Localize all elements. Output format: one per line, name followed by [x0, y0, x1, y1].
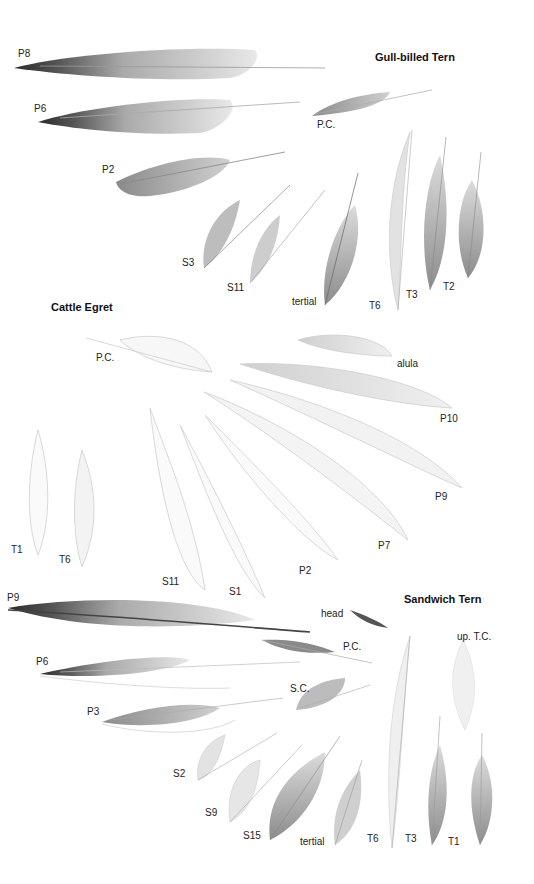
- feather-plate: Gull-billed Tern Cattle Egret Sandwich T…: [0, 0, 534, 884]
- label-ce-s11: S11: [162, 577, 179, 587]
- label-ce-p2: P2: [299, 566, 311, 576]
- label-gbt-s11: S11: [227, 283, 244, 293]
- sandwich-tern-feathers: [8, 600, 492, 848]
- label-ce-p7: P7: [378, 541, 390, 551]
- gull-billed-tern-feathers: [14, 49, 484, 310]
- cattle-egret-feathers: [29, 335, 462, 598]
- label-st-s15: S15: [243, 831, 261, 841]
- label-ce-p9: P9: [435, 492, 447, 502]
- label-st-head: head: [321, 609, 343, 619]
- label-st-pc: P.C.: [343, 642, 361, 652]
- label-st-t3: T3: [405, 834, 417, 844]
- section-title-sandwich-tern: Sandwich Tern: [404, 594, 481, 605]
- label-gbt-p6: P6: [34, 104, 46, 114]
- label-st-t1: T1: [448, 837, 460, 847]
- section-title-cattle-egret: Cattle Egret: [51, 302, 113, 313]
- label-ce-pc: P.C.: [96, 353, 114, 363]
- label-st-up-tc: up. T.C.: [457, 632, 491, 642]
- label-gbt-p8: P8: [18, 49, 30, 59]
- feather-illustrations: [0, 0, 534, 884]
- label-st-sc: S.C.: [290, 684, 309, 694]
- label-st-p9: P9: [7, 593, 19, 603]
- label-st-s2: S2: [173, 769, 185, 779]
- label-st-tertial: tertial: [300, 837, 324, 847]
- label-st-s9: S9: [205, 808, 217, 818]
- label-gbt-pc: P.C.: [317, 120, 335, 130]
- label-st-p6: P6: [36, 657, 48, 667]
- label-st-t6: T6: [367, 834, 379, 844]
- section-title-gull-billed-tern: Gull-billed Tern: [375, 52, 455, 63]
- label-ce-s1: S1: [229, 587, 241, 597]
- label-gbt-t2: T2: [443, 282, 455, 292]
- label-ce-t6: T6: [59, 555, 71, 565]
- label-gbt-p2: P2: [102, 165, 114, 175]
- label-gbt-s3: S3: [182, 258, 194, 268]
- label-st-p3: P3: [87, 707, 99, 717]
- label-gbt-t3: T3: [406, 290, 418, 300]
- label-gbt-t6: T6: [369, 301, 381, 311]
- label-ce-t1: T1: [11, 545, 23, 555]
- label-gbt-tertial: tertial: [292, 297, 316, 307]
- label-ce-alula: alula: [397, 359, 418, 369]
- label-ce-p10: P10: [440, 414, 458, 424]
